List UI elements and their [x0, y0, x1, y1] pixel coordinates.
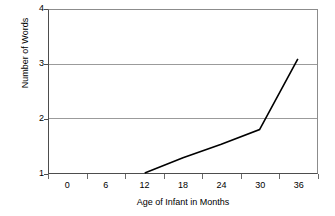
- x-axis-tick-mark: [87, 174, 88, 179]
- x-axis-tick-mark: [279, 174, 280, 179]
- x-axis-tick-marks: [48, 174, 318, 179]
- plot-area: [48, 9, 318, 174]
- x-axis-tick-label: 30: [245, 180, 275, 191]
- y-axis-tick-label: 3: [26, 59, 44, 68]
- series-line-path: [145, 59, 298, 173]
- x-axis-tick-label: 36: [284, 180, 314, 191]
- x-axis-tick-labels: 061218243036: [48, 180, 318, 194]
- x-axis-tick-mark: [241, 174, 242, 179]
- y-axis-tick-label: 4: [26, 4, 44, 13]
- y-axis-tick-label: 2: [26, 114, 44, 123]
- y-axis-tick-label: 1: [26, 169, 44, 178]
- x-axis-tick-mark: [125, 174, 126, 179]
- x-axis-tick-mark: [48, 174, 49, 179]
- line-chart: Number of Words 1234 061218243036 Age of…: [0, 0, 335, 216]
- x-axis-tick-label: 24: [207, 180, 237, 191]
- y-axis-tick-labels: 1234: [22, 0, 44, 216]
- x-axis-tick-label: 18: [168, 180, 198, 191]
- x-axis-tick-mark: [164, 174, 165, 179]
- x-axis-tick-mark: [318, 174, 319, 179]
- x-axis-tick-label: 0: [52, 180, 82, 191]
- gridlines-group: [49, 64, 317, 118]
- x-axis-tick-label: 12: [129, 180, 159, 191]
- x-axis-tick-label: 6: [91, 180, 121, 191]
- x-axis-tick-mark: [202, 174, 203, 179]
- series-line-svg: [49, 10, 317, 173]
- x-axis-title: Age of Infant in Months: [48, 197, 318, 208]
